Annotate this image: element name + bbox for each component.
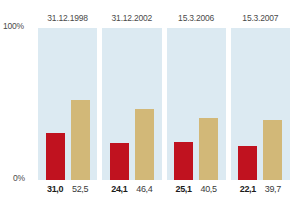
- value-label-beige: 39,7: [263, 184, 282, 200]
- bar-chart: 100% 0% 31.12.1998 31.12.2002 15.3.2006 …: [0, 0, 308, 208]
- bar-beige: [71, 100, 90, 180]
- value-label-row: 31,0 52,5 24,1 46,4 25,1 40,5 22,1 39,7: [38, 184, 290, 200]
- category-panel: [167, 28, 226, 180]
- bar-red: [238, 146, 257, 180]
- category-label: 15.3.2006: [167, 13, 226, 27]
- value-label-group: 24,1 46,4: [102, 184, 161, 200]
- y-axis-top-tick-label: 100%: [3, 21, 24, 31]
- bar-red: [46, 133, 65, 180]
- bar-red: [174, 142, 193, 180]
- value-label-beige: 46,4: [135, 184, 154, 200]
- value-label-red: 31,0: [46, 184, 65, 200]
- y-axis-bottom-tick-label: 0%: [13, 173, 25, 183]
- category-header-row: 31.12.1998 31.12.2002 15.3.2006 15.3.200…: [38, 13, 290, 27]
- category-panel: [38, 28, 97, 180]
- bar-beige: [263, 120, 282, 180]
- value-label-group: 25,1 40,5: [167, 184, 226, 200]
- category-label: 31.12.1998: [38, 13, 97, 27]
- value-label-group: 22,1 39,7: [231, 184, 290, 200]
- value-label-beige: 52,5: [71, 184, 90, 200]
- category-panel: [231, 28, 290, 180]
- category-label: 31.12.2002: [102, 13, 161, 27]
- value-label-red: 24,1: [110, 184, 129, 200]
- category-label: 15.3.2007: [231, 13, 290, 27]
- category-panel: [102, 28, 161, 180]
- value-label-group: 31,0 52,5: [38, 184, 97, 200]
- bar-red: [110, 143, 129, 180]
- value-label-beige: 40,5: [199, 184, 218, 200]
- bar-beige: [199, 118, 218, 180]
- plot-area: [38, 28, 290, 180]
- value-label-red: 22,1: [238, 184, 257, 200]
- bar-beige: [135, 109, 154, 180]
- value-label-red: 25,1: [174, 184, 193, 200]
